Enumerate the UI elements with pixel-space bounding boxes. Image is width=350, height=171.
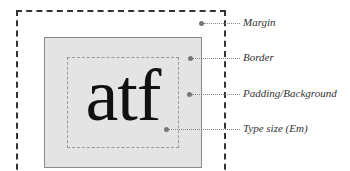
padding-leader-line — [192, 94, 240, 95]
type-size-label: Type size (Em) — [243, 122, 308, 134]
margin-label: Margin — [243, 16, 276, 28]
padding-label: Padding/Background — [243, 87, 337, 99]
margin-leader-line — [204, 23, 240, 24]
sample-type-atf: atf — [60, 58, 186, 132]
border-leader-line — [193, 58, 240, 59]
border-label: Border — [243, 51, 274, 63]
type-size-leader-line — [169, 129, 240, 130]
